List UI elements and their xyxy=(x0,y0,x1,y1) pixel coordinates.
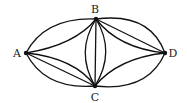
vertex-c xyxy=(93,84,97,88)
edge-b-c-straight xyxy=(95,19,96,86)
label-d: D xyxy=(169,47,178,60)
graph-diagram: A B C D xyxy=(0,0,187,103)
vertex-b xyxy=(94,17,98,21)
label-c: C xyxy=(91,91,99,103)
vertex-a xyxy=(24,51,28,55)
edge-a-c-straight xyxy=(26,53,95,86)
vertex-d xyxy=(163,51,167,55)
label-a: A xyxy=(12,47,22,60)
label-b: B xyxy=(91,3,99,16)
